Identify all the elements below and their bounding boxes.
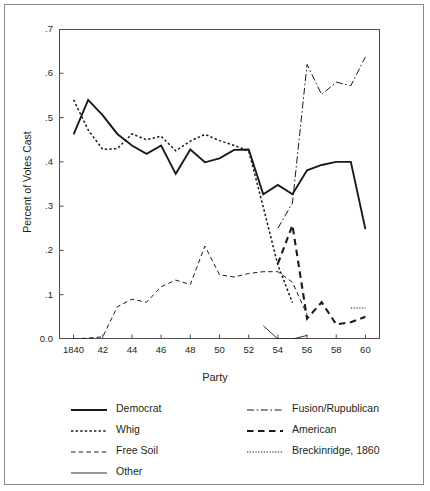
- legend-item-label: Other: [116, 465, 142, 477]
- legend-item[interactable]: Breckinridge, 1860: [247, 439, 380, 460]
- legend-line-swatch-icon: [71, 423, 107, 435]
- legend-item-label: Breckinridge, 1860: [292, 444, 380, 456]
- legend-item-label: Free Soil: [116, 444, 158, 456]
- legend-item[interactable]: Free Soil: [71, 439, 162, 460]
- legend-line-swatch-icon: [71, 465, 107, 477]
- legend-line-swatch-icon: [71, 444, 107, 456]
- legend-item-label: Whig: [116, 423, 140, 435]
- legend-item-label: Fusion/Rupublican: [292, 402, 379, 414]
- legend-item[interactable]: Whig: [71, 418, 162, 439]
- chart-legend: DemocratWhigFree SoilOther Fusion/Rupubl…: [5, 397, 425, 481]
- legend-item[interactable]: Democrat: [71, 397, 162, 418]
- legend-line-swatch-icon: [247, 423, 283, 435]
- x-axis-title: Party: [5, 371, 425, 383]
- x-tick-labels: 184042444648505254565860: [5, 5, 425, 365]
- legend-item-label: American: [292, 423, 336, 435]
- legend-item[interactable]: Other: [71, 460, 162, 481]
- legend-column-right: Fusion/RupublicanAmericanBreckinridge, 1…: [247, 397, 380, 460]
- legend-item[interactable]: American: [247, 418, 380, 439]
- x-tick-label: 60: [348, 345, 382, 355]
- legend-line-swatch-icon: [247, 444, 283, 456]
- legend-item-label: Democrat: [116, 402, 162, 414]
- legend-line-swatch-icon: [247, 402, 283, 414]
- legend-column-left: DemocratWhigFree SoilOther: [71, 397, 162, 481]
- legend-line-swatch-icon: [71, 402, 107, 414]
- figure-frame: Percent of Votes Cast 0.0.1.2.3.4.5.6.7 …: [4, 4, 424, 485]
- legend-item[interactable]: Fusion/Rupublican: [247, 397, 380, 418]
